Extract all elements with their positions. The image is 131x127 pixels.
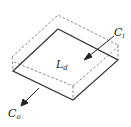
label-center: Ld (55, 58, 68, 72)
label-output: Co (8, 107, 21, 121)
box-diagram: Ld Ci Co (0, 0, 131, 127)
output-arrow-icon (21, 88, 39, 106)
label-input: Ci (114, 26, 125, 40)
input-arrow-icon (84, 36, 114, 60)
